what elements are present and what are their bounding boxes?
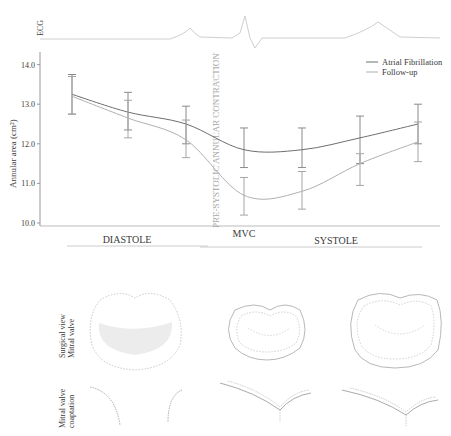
ecg-label: ECG <box>36 20 45 36</box>
valve-mvc-surgical <box>229 305 306 360</box>
series-follow-up <box>68 76 422 215</box>
legend: Atrial Fibrillation Follow-up <box>366 57 443 77</box>
y-axis: 10.011.012.013.014.0 Annular area (cm²) <box>8 52 440 228</box>
valve-open-surgical <box>90 293 181 370</box>
ecg-trace <box>40 16 440 48</box>
y-tick-label: 13.0 <box>21 100 35 109</box>
error-bar <box>240 128 248 168</box>
error-bar <box>298 128 306 168</box>
y-tick-label: 11.0 <box>21 179 35 188</box>
valve-systole-surgical <box>351 293 442 368</box>
valve-mvc-coaptation <box>220 381 311 422</box>
valve-open-coaptation <box>90 387 182 425</box>
diastole-label: DIASTOLE <box>103 234 152 245</box>
series-line <box>72 96 418 199</box>
y-tick-label: 14.0 <box>21 61 35 70</box>
surgical-view-label: Surgical view <box>58 314 67 358</box>
legend-follow-up: Follow-up <box>382 67 417 77</box>
mitral-valve-label: Mitral valve <box>67 318 76 358</box>
y-tick-label: 10.0 <box>21 219 35 228</box>
legend-atrial-fibrillation: Atrial Fibrillation <box>382 57 443 67</box>
y-tick-label: 12.0 <box>21 140 35 149</box>
mvc-label: MVC <box>233 228 256 239</box>
figure: ECG 10.011.012.013.014.0 Annular area (c… <box>0 0 451 436</box>
valve-systole-coaptation <box>342 388 438 426</box>
series-atrial-fibrillation <box>68 75 422 168</box>
error-bar <box>414 122 422 162</box>
systole-label: SYSTOLE <box>314 235 358 246</box>
plot-area <box>68 75 422 216</box>
y-axis-label: Annular area (cm²) <box>8 119 18 188</box>
valve-diagrams: Surgical view Mitral valve Mitral valve … <box>58 293 441 428</box>
error-bar <box>356 154 364 186</box>
ecg-strip: ECG <box>36 16 440 48</box>
coaptation-label-1: Mitral valve <box>58 388 67 428</box>
series-line <box>72 94 418 152</box>
coaptation-label-2: coaptation <box>67 395 76 428</box>
phase-labels: DIASTOLE MVC SYSTOLE <box>67 228 422 247</box>
error-bar <box>182 120 190 158</box>
